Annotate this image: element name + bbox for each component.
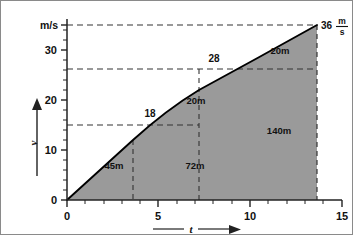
y-axis-label-group: v [27, 98, 42, 176]
y-axis-major-ticks [61, 25, 67, 200]
y-tick-label-10: 10 [45, 144, 57, 156]
y-tick-label-0: 0 [51, 194, 57, 206]
y-axis-unit-label: m/s [40, 19, 58, 31]
x-axis-arrow-icon [229, 225, 241, 234]
y-axis-arrow-icon [32, 98, 42, 110]
area-label-45m: 45m [104, 160, 123, 171]
area-label-20m-upper: 20m [270, 45, 289, 56]
area-label-140m: 140m [267, 125, 291, 136]
point-label-28: 28 [208, 53, 220, 64]
x-axis-major-ticks [67, 200, 342, 207]
y-axis-name: v [27, 140, 39, 145]
point-label-18: 18 [144, 108, 156, 119]
corner-unit-numerator: m [338, 16, 346, 26]
chart-svg: 0 10 20 30 m/s 0 5 10 15 t v [1, 1, 353, 235]
area-label-72m: 72m [185, 160, 204, 171]
x-tick-label-15: 15 [336, 210, 348, 222]
y-tick-label-30: 30 [45, 44, 57, 56]
x-tick-label-10: 10 [244, 210, 256, 222]
velocity-time-chart: 0 10 20 30 m/s 0 5 10 15 t v [1, 1, 353, 235]
corner-value-36: 36 [321, 20, 333, 31]
x-tick-label-0: 0 [64, 210, 70, 222]
x-axis-name: t [189, 223, 193, 235]
corner-value-annotation: 36 m s [321, 16, 348, 37]
x-tick-label-5: 5 [155, 210, 161, 222]
area-label-20m-middle: 20m [186, 95, 205, 106]
corner-unit-denominator: s [340, 27, 345, 37]
figure-frame: 0 10 20 30 m/s 0 5 10 15 t v [0, 0, 353, 235]
x-axis-label-group: t [153, 223, 241, 235]
y-tick-label-20: 20 [45, 94, 57, 106]
